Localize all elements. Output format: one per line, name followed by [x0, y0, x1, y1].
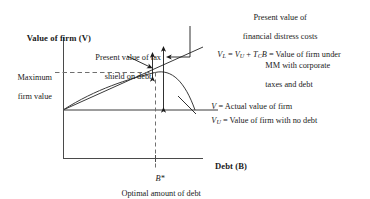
max-firm-value-line2: firm value — [18, 92, 52, 101]
vu-label: VU = Value of firm with no debt — [203, 107, 317, 136]
vl-formula-cont-line1: MM with corporate — [265, 61, 330, 70]
figure-caption: Optimal amount of debt — [62, 180, 252, 199]
x-axis-title: Debt (B) — [206, 152, 247, 181]
figure-canvas: Value of firm (V) Maximum firm value Pre… — [0, 0, 370, 199]
distress-cost-line1: Present value of — [253, 13, 306, 22]
tax-shield-line1: Present value of tax — [95, 53, 161, 62]
vl-formula-cont: MM with corporate taxes and debt — [257, 52, 370, 98]
max-firm-value-label: Maximum firm value — [0, 64, 52, 110]
max-firm-value-line1: Maximum — [17, 73, 52, 82]
distress-cost-line2: financial distress costs — [243, 32, 318, 41]
vl-formula-cont-line2: taxes and debt — [265, 80, 312, 89]
tax-shield-line2: shield on debt — [105, 72, 152, 81]
tax-shield-annotation: Present value of tax shield on debt — [70, 44, 178, 90]
